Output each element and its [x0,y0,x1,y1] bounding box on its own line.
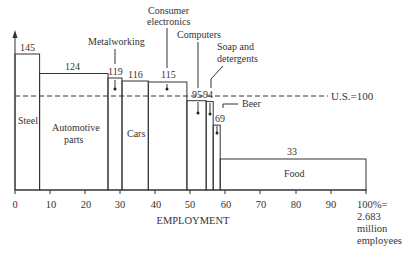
tick-label: 70 [256,199,267,210]
tick-label: 50 [185,199,196,210]
end-label-line: million [357,223,388,234]
label-consumer-electronics-line1: Consumer [148,5,190,16]
end-label-line: 2.683 [357,211,381,222]
employment-productivity-chart: U.S.=100 145 124 119 116 115 95 94 69 33… [0,0,409,255]
value-automotive-parts: 124 [65,61,80,72]
bar-computers [187,101,206,190]
tick-label: 60 [221,199,232,210]
bar-metalworking [108,78,122,190]
value-consumer-electronics: 115 [161,69,176,80]
value-computers: 95 [192,89,202,100]
end-label-line: 100%= [357,199,387,210]
category-labels-inside: Steel Automotive parts Cars Food [18,115,305,179]
value-metalworking: 119 [108,66,123,77]
label-computers: Computers [177,29,221,40]
value-beer: 69 [215,113,225,124]
marker-dot-icon [166,88,169,91]
x-tick-labels: 0 10 20 30 40 50 60 70 80 90 [12,199,336,210]
y-axis-arrow-icon [13,30,18,38]
value-steel: 145 [20,42,35,53]
value-food: 33 [287,146,297,157]
label-soap-detergents-line1: Soap and [217,41,254,52]
bar-beer [213,125,220,190]
end-label-line: employees [357,235,402,246]
value-cars: 116 [128,69,143,80]
tick-label: 0 [12,199,17,210]
tick-label: 40 [151,199,162,210]
x-axis [15,190,367,194]
x-axis-end-label: 100%= 2.683 million employees [357,199,402,246]
tick-label: 10 [46,199,57,210]
tick-label: 80 [291,199,302,210]
x-axis-title: EMPLOYMENT [157,215,231,226]
label-steel: Steel [18,115,38,126]
label-automotive-parts-line2: parts [64,134,84,145]
label-metalworking: Metalworking [88,36,145,47]
label-food: Food [284,168,305,179]
tick-label: 20 [81,199,92,210]
reference-line-label: U.S.=100 [331,90,374,102]
marker-dot-icon [197,112,200,115]
value-soap-detergents: 94 [203,89,213,100]
label-beer: Beer [242,98,262,109]
marker-dot-icon [209,113,212,116]
tick-label: 30 [115,199,126,210]
bar-consumer-electronics [148,82,187,190]
label-cars: Cars [127,128,145,139]
label-soap-detergents-line2: detergents [217,53,258,64]
marker-dot-icon [114,88,117,91]
tick-label: 90 [326,199,337,210]
label-consumer-electronics-line2: electronics [147,16,190,27]
marker-dot-icon [216,132,219,135]
label-automotive-parts-line1: Automotive [52,122,100,133]
